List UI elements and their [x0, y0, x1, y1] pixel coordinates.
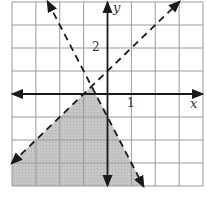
coordinate-graph [0, 0, 207, 199]
x-axis-label: x [190, 96, 197, 111]
x-tick-label-1: 1 [127, 96, 135, 110]
y-tick-label-2: 2 [92, 40, 100, 54]
y-axis-label: y [113, 0, 120, 15]
